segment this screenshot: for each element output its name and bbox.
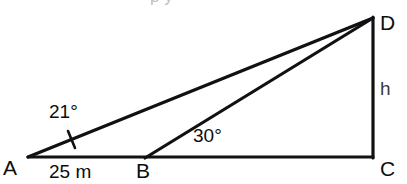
height-label-h: h <box>380 79 391 98</box>
diagram-canvas <box>0 0 407 184</box>
angle-label-21-degrees: 21° <box>49 102 78 121</box>
vertex-label-c: C <box>380 158 395 179</box>
angle-label-30-degrees: 30° <box>193 126 222 145</box>
segment-cevian-BD <box>145 18 373 158</box>
vertex-label-d: D <box>380 12 395 33</box>
vertex-label-b: B <box>136 160 150 181</box>
geometry-figure: p y A B C D h 21° 30° 25 m <box>0 0 407 184</box>
vertex-label-a: A <box>3 157 17 178</box>
base-length-label: 25 m <box>49 162 91 181</box>
